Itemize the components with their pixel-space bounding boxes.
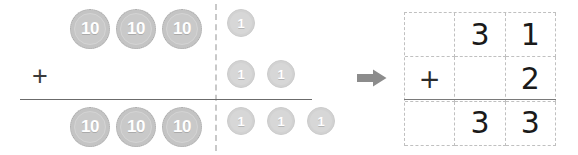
one-disc: 1 xyxy=(227,60,255,88)
ten-disc: 10 xyxy=(116,107,156,147)
one-disc-label: 1 xyxy=(317,114,324,129)
ten-disc: 10 xyxy=(116,9,156,49)
ten-disc: 10 xyxy=(70,107,110,147)
ones-bottom-row: 1 1 1 xyxy=(227,107,347,135)
ten-disc-label: 10 xyxy=(173,19,191,39)
grid-cell-r2c3-ones-digit: 2 xyxy=(506,57,556,101)
place-value-dashed-divider xyxy=(215,4,217,151)
ten-disc: 10 xyxy=(162,9,202,49)
ones-top-row: 1 xyxy=(227,9,267,37)
grid-cell-r2c1-operator: + xyxy=(405,57,455,101)
ten-disc-label: 10 xyxy=(81,19,99,39)
tens-top-row: 10 10 10 xyxy=(70,9,208,49)
one-disc: 1 xyxy=(227,107,255,135)
worksheet-canvas: + 10 10 10 1 1 1 xyxy=(0,0,578,155)
one-disc-label: 1 xyxy=(237,16,244,31)
grid-cell-r3c1 xyxy=(405,102,455,146)
disc-model-plus-operator: + xyxy=(27,63,53,89)
ten-disc-label: 10 xyxy=(81,117,99,137)
one-disc-label: 1 xyxy=(237,67,244,82)
ten-disc-label: 10 xyxy=(173,117,191,137)
grid-cell-r2c2-tens-digit xyxy=(455,57,505,101)
grid-cell-r3c3-ones-digit: 3 xyxy=(506,102,556,146)
one-disc-label: 1 xyxy=(237,114,244,129)
grid-cell-r3c2-tens-digit: 3 xyxy=(455,102,505,146)
one-disc-label: 1 xyxy=(277,67,284,82)
ten-disc: 10 xyxy=(70,9,110,49)
ones-middle-row: 1 1 xyxy=(227,60,307,88)
place-value-disc-model: + 10 10 10 1 1 1 xyxy=(0,0,320,155)
one-disc: 1 xyxy=(227,9,255,37)
ten-disc-label: 10 xyxy=(127,19,145,39)
grid-cell-r1c1 xyxy=(405,13,455,57)
arrow-right-icon xyxy=(357,69,387,87)
grid-cell-r1c2-tens-digit: 3 xyxy=(455,13,505,57)
tens-bottom-row: 10 10 10 xyxy=(70,107,208,147)
disc-model-sum-rule xyxy=(20,99,312,100)
algorithm-grid-sum-rule xyxy=(404,99,556,100)
one-disc: 1 xyxy=(307,107,335,135)
one-disc: 1 xyxy=(267,107,295,135)
ten-disc: 10 xyxy=(162,107,202,147)
one-disc: 1 xyxy=(267,60,295,88)
grid-cell-r1c3-ones-digit: 1 xyxy=(506,13,556,57)
vertical-algorithm-grid: 3 1 + 2 3 3 xyxy=(404,12,556,146)
ten-disc-label: 10 xyxy=(127,117,145,137)
one-disc-label: 1 xyxy=(277,114,284,129)
